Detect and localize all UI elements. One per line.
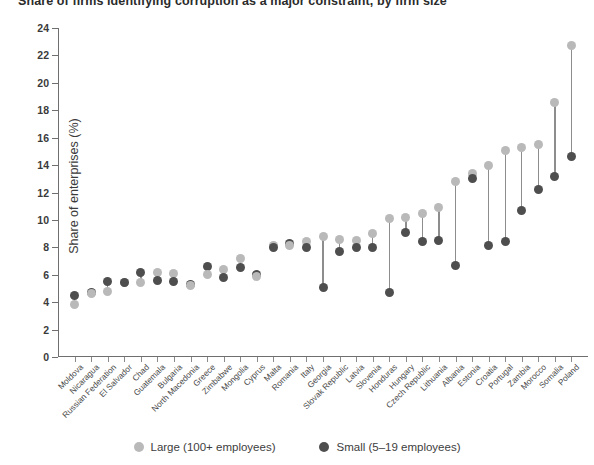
chart-title: Share of firms identifying corruption as… [18,0,447,8]
data-point-large [418,209,427,218]
data-point-large [451,177,460,186]
y-axis-tick-label: 2 [43,324,49,336]
connector-line [322,236,323,287]
legend-label: Large (100+ employees) [151,441,276,453]
y-axis-tick [52,275,58,276]
y-axis-tick-label: 14 [37,159,49,171]
y-axis-tick-label: 12 [37,187,49,199]
data-point-small [451,261,460,270]
data-point-small [103,277,112,286]
y-axis-tick [52,110,58,111]
data-point-small [70,291,79,300]
connector-line [455,182,456,266]
data-point-large [103,287,112,296]
data-point-large [567,41,576,50]
data-point-small [319,283,328,292]
y-axis-tick [52,357,58,358]
plot-area: 024681012141618202224 [58,28,588,357]
data-point-large [319,232,328,241]
y-axis-tick-label: 22 [37,49,49,61]
data-point-small [550,172,559,181]
data-point-small [269,243,278,252]
chart-legend: Large (100+ employees)Small (5–19 employ… [0,441,594,453]
y-axis-tick-label: 4 [43,296,49,308]
data-point-small [136,268,145,277]
x-axis-labels: MoldovaNicaraguaRussian FederationEl Sal… [58,362,588,440]
connector-line [538,145,539,190]
y-axis-tick [52,55,58,56]
connector-line [505,150,506,242]
data-point-large [501,146,510,155]
data-point-small [418,237,427,246]
y-axis-tick [52,165,58,166]
data-point-small [335,247,344,256]
data-point-small [534,185,543,194]
data-point-large [136,278,145,287]
data-point-large [335,235,344,244]
y-axis-tick [52,193,58,194]
data-point-large [70,300,79,309]
data-point-small [401,228,410,237]
data-point-large [385,214,394,223]
y-axis-tick-label: 0 [43,351,49,363]
connector-line [521,147,522,210]
data-point-small [352,243,361,252]
circle-marker-icon [319,442,329,452]
y-axis-tick-label: 20 [37,77,49,89]
circle-marker-icon [134,442,144,452]
data-point-small [120,278,129,287]
data-point-small [169,277,178,286]
y-axis-tick [52,28,58,29]
data-point-large [401,213,410,222]
connector-line [571,46,572,157]
data-point-large [252,272,261,281]
data-point-small [385,288,394,297]
data-point-small [484,241,493,250]
legend-label: Small (5–19 employees) [336,441,460,453]
data-point-small [368,243,377,252]
data-point-large [203,270,212,279]
legend-item[interactable]: Large (100+ employees) [134,441,276,453]
legend-item[interactable]: Small (5–19 employees) [319,441,460,453]
y-axis-tick-label: 18 [37,104,49,116]
data-point-large [236,254,245,263]
y-axis-line [58,28,59,357]
data-point-small [236,263,245,272]
y-axis-tick [52,138,58,139]
data-point-large [434,203,443,212]
data-point-small [501,237,510,246]
data-point-large [87,289,96,298]
data-point-large [186,281,195,290]
data-point-large [368,229,377,238]
y-axis-tick [52,302,58,303]
data-point-small [567,152,576,161]
data-point-large [484,161,493,170]
data-point-small [468,174,477,183]
y-axis-tick-label: 10 [37,214,49,226]
y-axis-tick [52,330,58,331]
connector-line [488,165,489,246]
y-axis-tick-label: 6 [43,269,49,281]
data-point-large [285,241,294,250]
y-axis-tick-label: 24 [37,22,49,34]
y-axis-tick-label: 8 [43,241,49,253]
data-point-small [517,206,526,215]
dumbbell-chart: Share of firms identifying corruption as… [0,0,594,465]
y-axis-tick-label: 16 [37,132,49,144]
data-point-large [517,143,526,152]
data-point-small [302,243,311,252]
data-point-large [534,140,543,149]
connector-line [389,219,390,293]
data-point-small [219,273,228,282]
connector-line [554,102,555,176]
y-axis-tick [52,83,58,84]
y-axis-tick [52,247,58,248]
data-point-small [153,276,162,285]
y-axis-tick [52,220,58,221]
data-point-large [550,98,559,107]
data-point-small [434,236,443,245]
